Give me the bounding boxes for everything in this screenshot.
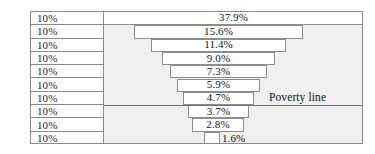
bar-value-6: 5.9% xyxy=(207,79,230,90)
bar-value-10: 1.6% xyxy=(222,133,245,143)
row-label-2: 10% xyxy=(31,25,104,38)
bar-row-9: 2.8% xyxy=(192,118,244,131)
bar-value-5: 7.3% xyxy=(207,66,230,77)
poverty-line xyxy=(104,105,362,106)
bar-row-2: 15.6% xyxy=(134,25,303,38)
row-label-3: 10% xyxy=(31,39,104,52)
bar-row-6: 5.9% xyxy=(177,79,260,92)
bar-row-10: 1.6% xyxy=(204,132,220,143)
row-label-8: 10% xyxy=(31,105,104,118)
bar-group: 37.9% 15.6% 11.4% 9.0% 7.3% xyxy=(104,12,362,143)
chart-frame: 10% 10% 10% 10% 10% 10% 10% 10% 10% 10% … xyxy=(30,11,363,144)
plot-area: 37.9% 15.6% 11.4% 9.0% 7.3% xyxy=(104,12,362,143)
bar-row-7: 4.7% xyxy=(183,92,254,105)
row-label-10: 10% xyxy=(31,132,104,145)
bar-value-2: 15.6% xyxy=(204,26,233,37)
bar-value-1: 37.9% xyxy=(219,12,248,23)
bar-value-3: 11.4% xyxy=(204,39,233,50)
bar-row-1: 37.9% xyxy=(104,12,362,25)
bar-value-4: 9.0% xyxy=(207,53,230,64)
bar-row-4: 9.0% xyxy=(162,52,275,65)
row-label-7: 10% xyxy=(31,92,104,105)
decile-label-column: 10% 10% 10% 10% 10% 10% 10% 10% 10% 10% xyxy=(31,12,104,143)
row-label-9: 10% xyxy=(31,118,104,131)
bar-row-3: 11.4% xyxy=(151,39,286,52)
row-label-5: 10% xyxy=(31,65,104,78)
bar-row-5: 7.3% xyxy=(170,65,267,78)
funnel-chart: 10% 10% 10% 10% 10% 10% 10% 10% 10% 10% … xyxy=(0,0,375,154)
bar-row-8: 3.7% xyxy=(188,105,249,118)
row-label-6: 10% xyxy=(31,79,104,92)
bar-value-8: 3.7% xyxy=(207,106,230,117)
bar-value-9: 2.8% xyxy=(206,119,229,130)
poverty-line-label: Poverty line xyxy=(269,91,326,103)
bar-value-7: 4.7% xyxy=(207,92,230,103)
row-label-1: 10% xyxy=(31,12,104,25)
row-label-4: 10% xyxy=(31,52,104,65)
